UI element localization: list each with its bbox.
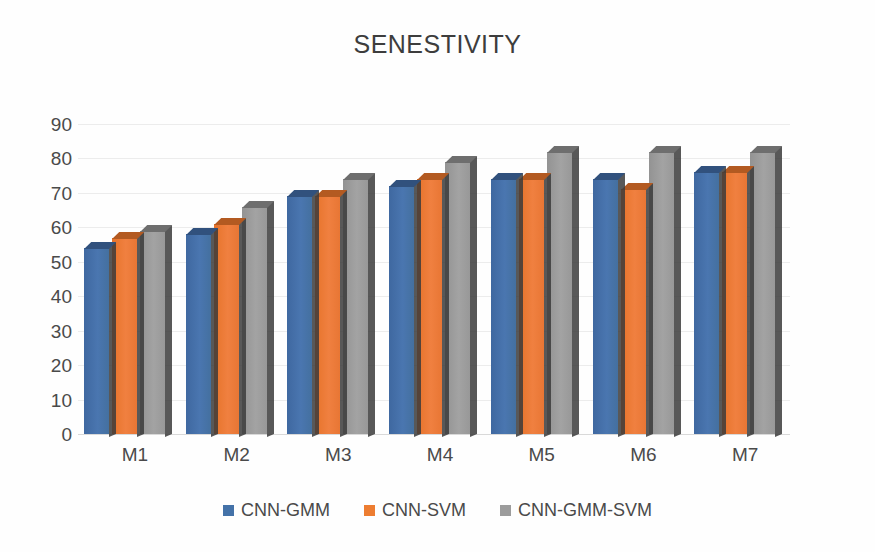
- bar-face: [491, 179, 516, 434]
- bar-cnn-gmm-m4: [389, 180, 414, 434]
- bar-group: [587, 124, 689, 434]
- bars: [180, 124, 282, 434]
- bars: [587, 124, 689, 434]
- bar-side: [368, 173, 375, 437]
- bar-face: [343, 179, 368, 434]
- bar-cnn-gmm-m2: [186, 228, 211, 434]
- bar-side: [516, 173, 523, 437]
- y-axis-tick-label: 20: [28, 356, 72, 375]
- bar-side: [267, 201, 274, 437]
- axis-baseline: [78, 434, 790, 435]
- bar-group: [281, 124, 383, 434]
- legend-label: CNN-SVM: [382, 500, 466, 521]
- bar-group: [383, 124, 485, 434]
- x-axis-tick-label: M5: [485, 444, 587, 466]
- bar-cnn-gmm-m6: [593, 173, 618, 434]
- y-axis-tick-label: 90: [28, 115, 72, 134]
- y-axis-tick-label: 40: [28, 287, 72, 306]
- bar-side: [646, 183, 653, 437]
- bars: [383, 124, 485, 434]
- y-axis-tick-label: 10: [28, 390, 72, 409]
- bar-side: [544, 173, 551, 437]
- bar-face: [84, 248, 109, 434]
- legend-label: CNN-GMM-SVM: [518, 500, 652, 521]
- legend-item[interactable]: CNN-GMM-SVM: [500, 500, 652, 521]
- bar-side: [312, 190, 319, 437]
- bars: [281, 124, 383, 434]
- bars: [688, 124, 790, 434]
- bar-side: [470, 156, 477, 437]
- x-axis-tick-label: M7: [688, 444, 790, 466]
- bar-side: [572, 145, 579, 437]
- bars: [485, 124, 587, 434]
- x-axis-tick-label: M6: [587, 444, 689, 466]
- bar-side: [618, 173, 625, 437]
- chart-page: SENESTIVITY 9080706050403020100 M1M2M3M4…: [0, 0, 875, 552]
- bar-side: [211, 228, 218, 437]
- y-axis-tick-label: 60: [28, 218, 72, 237]
- y-axis-tick-label: 50: [28, 252, 72, 271]
- legend-item[interactable]: CNN-GMM: [223, 500, 330, 521]
- bar-side: [137, 232, 144, 437]
- bar-side: [442, 173, 449, 437]
- chart-title: SENESTIVITY: [0, 30, 875, 59]
- bar-face: [315, 196, 340, 434]
- bar-face: [750, 152, 775, 434]
- legend-swatch-icon: [223, 505, 234, 516]
- plot-area: [78, 124, 790, 434]
- chart-legend: CNN-GMMCNN-SVMCNN-GMM-SVM: [0, 500, 875, 521]
- legend-item[interactable]: CNN-SVM: [364, 500, 466, 521]
- bar-side: [414, 180, 421, 437]
- x-axis-tick-label: M3: [281, 444, 383, 466]
- bar-face: [722, 172, 747, 434]
- bars: [78, 124, 180, 434]
- bar-side: [340, 190, 347, 437]
- bar-side: [719, 166, 726, 437]
- y-axis-tick-label: 70: [28, 183, 72, 202]
- y-axis-tick-label: 30: [28, 321, 72, 340]
- x-axis-tick-label: M4: [383, 444, 485, 466]
- bar-side: [674, 145, 681, 437]
- bar-cnn-gmm-svm-m3: [343, 173, 368, 434]
- bar-side: [239, 218, 246, 437]
- y-axis-tick-label: 0: [28, 425, 72, 444]
- bar-side: [775, 145, 782, 437]
- bar-face: [593, 179, 618, 434]
- bar-cnn-svm-m3: [315, 190, 340, 434]
- bar-cnn-gmm-m7: [694, 166, 719, 434]
- bar-side: [165, 225, 172, 437]
- bar-group: [78, 124, 180, 434]
- bar-cnn-gmm-svm-m7: [750, 146, 775, 434]
- y-axis-tick-label: 80: [28, 149, 72, 168]
- legend-swatch-icon: [364, 505, 375, 516]
- legend-swatch-icon: [500, 505, 511, 516]
- y-axis-labels: 9080706050403020100: [28, 124, 72, 434]
- x-axis-tick-label: M2: [180, 444, 282, 466]
- bar-face: [186, 234, 211, 434]
- bar-group: [485, 124, 587, 434]
- legend-label: CNN-GMM: [241, 500, 330, 521]
- bar-side: [109, 242, 116, 437]
- bar-group: [180, 124, 282, 434]
- bar-face: [389, 186, 414, 434]
- bar-face: [287, 196, 312, 434]
- bar-side: [747, 166, 754, 437]
- bar-groups: [78, 124, 790, 434]
- bar-cnn-gmm-m5: [491, 173, 516, 434]
- bar-group: [688, 124, 790, 434]
- bar-cnn-svm-m7: [722, 166, 747, 434]
- bar-cnn-gmm-m1: [84, 242, 109, 434]
- bar-cnn-gmm-m3: [287, 190, 312, 434]
- bar-face: [694, 172, 719, 434]
- x-axis-tick-label: M1: [78, 444, 180, 466]
- x-axis-labels: M1M2M3M4M5M6M7: [78, 444, 790, 466]
